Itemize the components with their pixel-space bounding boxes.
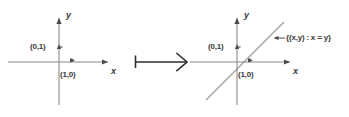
left-y-axis-arrowhead — [56, 18, 61, 24]
right-point-label-1-0: (1,0) — [238, 71, 253, 79]
right-plane-group — [190, 18, 290, 105]
right-y-axis-arrowhead — [234, 18, 239, 24]
right-point-label-0-1: (0,1) — [208, 43, 223, 51]
left-point-label-0-1: (0,1) — [30, 43, 45, 51]
identity-line — [206, 22, 284, 100]
diagram-canvas — [0, 0, 349, 117]
left-x-axis-arrowhead — [102, 59, 108, 64]
left-y-axis-label: y — [66, 11, 71, 20]
left-plane-group — [8, 18, 108, 105]
left-x-axis-label: x — [111, 67, 116, 76]
identity-relation-diagram: y x (0,1) (1,0) y x (0,1) (1,0) {(x,y) :… — [0, 0, 349, 117]
right-x-axis-arrowhead — [284, 59, 290, 64]
set-label-pointer-head — [274, 36, 279, 40]
left-point-label-1-0: (1,0) — [60, 71, 75, 79]
right-y-axis-label: y — [244, 11, 249, 20]
identity-set-label: {(x,y) : x = y} — [286, 34, 331, 42]
maps-to-arrow-group — [136, 54, 188, 71]
right-x-axis-label: x — [293, 67, 298, 76]
